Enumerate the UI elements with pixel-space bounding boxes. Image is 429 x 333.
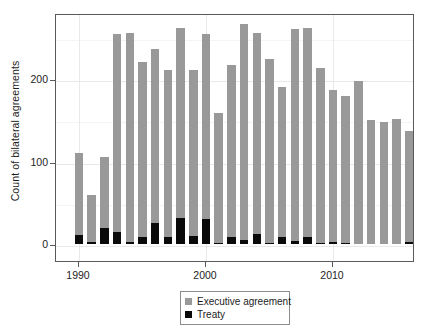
bar-2009 <box>316 68 325 244</box>
bar-segment-executive-agreement <box>240 24 249 244</box>
x-axis-tick-label: 2010 <box>320 269 343 281</box>
bar-1992 <box>100 157 109 244</box>
y-axis-tick-label: 100 <box>8 156 48 168</box>
legend-item-executive-agreement: Executive agreement <box>185 295 284 308</box>
x-axis-tick <box>78 262 79 267</box>
chart-legend: Executive agreement Treaty <box>180 291 290 325</box>
bar-1998 <box>176 28 185 244</box>
bar-segment-treaty <box>341 243 350 245</box>
bar-segment-executive-agreement <box>392 119 401 244</box>
bar-segment-treaty <box>316 243 325 245</box>
bar-segment-treaty <box>87 242 96 244</box>
bar-segment-treaty <box>329 242 338 244</box>
bar-1993 <box>113 34 122 244</box>
bar-segment-executive-agreement <box>138 62 147 244</box>
bar-2010 <box>329 90 338 244</box>
bar-segment-treaty <box>189 236 198 244</box>
bar-segment-executive-agreement <box>151 49 160 244</box>
bar-segment-executive-agreement <box>303 28 312 244</box>
x-axis-tick <box>205 262 206 267</box>
bar-segment-executive-agreement <box>316 68 325 244</box>
bar-segment-treaty <box>202 219 211 244</box>
bar-segment-treaty <box>164 237 173 244</box>
plot-inner <box>56 15 413 261</box>
bar-2006 <box>278 87 287 244</box>
bar-2000 <box>202 34 211 244</box>
bar-segment-treaty <box>126 242 135 244</box>
bar-segment-treaty <box>100 228 109 244</box>
bar-segment-executive-agreement <box>367 120 376 244</box>
bar-segment-executive-agreement <box>113 34 122 244</box>
bar-segment-treaty <box>291 241 300 244</box>
bar-segment-executive-agreement <box>176 28 185 244</box>
bar-2007 <box>291 29 300 244</box>
bar-segment-treaty <box>278 237 287 244</box>
bar-segment-executive-agreement <box>329 90 338 244</box>
bar-segment-treaty <box>265 243 274 245</box>
chart-root: Count of bilateral agreements 0100200 19… <box>0 0 429 333</box>
bar-segment-executive-agreement <box>202 34 211 244</box>
legend-swatch-treaty-icon <box>185 311 192 318</box>
bar-segment-treaty <box>151 223 160 244</box>
bar-segment-treaty <box>176 218 185 244</box>
bar-segment-executive-agreement <box>214 113 223 244</box>
bar-1997 <box>164 70 173 244</box>
bar-1994 <box>126 33 135 244</box>
bar-segment-executive-agreement <box>278 87 287 244</box>
bar-1995 <box>138 62 147 244</box>
x-axis-tick <box>332 262 333 267</box>
y-axis-title: Count of bilateral agreements <box>6 0 24 262</box>
bar-segment-treaty <box>253 234 262 244</box>
bar-segment-executive-agreement <box>227 65 236 244</box>
bar-segment-executive-agreement <box>164 70 173 244</box>
bar-2004 <box>253 33 262 244</box>
bar-segment-treaty <box>405 242 413 244</box>
bar-1990 <box>75 153 84 244</box>
y-axis-tick-label: 0 <box>8 238 48 250</box>
bar-segment-executive-agreement <box>265 59 274 244</box>
bar-2015 <box>392 119 401 244</box>
bar-segment-executive-agreement <box>87 195 96 244</box>
bar-2016 <box>405 131 413 244</box>
x-axis-tick-label: 2000 <box>193 269 216 281</box>
plot-area <box>55 14 414 262</box>
bar-2012 <box>354 81 363 244</box>
bar-segment-executive-agreement <box>126 33 135 244</box>
bar-segment-executive-agreement <box>291 29 300 244</box>
bar-2011 <box>341 96 350 245</box>
bar-segment-treaty <box>113 232 122 244</box>
bar-segment-executive-agreement <box>253 33 262 244</box>
gridline-horizontal-minor <box>56 40 413 41</box>
legend-label-executive-agreement: Executive agreement <box>197 295 291 308</box>
bar-2002 <box>227 65 236 244</box>
gridline-horizontal <box>56 246 413 247</box>
bar-2003 <box>240 24 249 244</box>
bar-segment-treaty <box>240 240 249 244</box>
bar-segment-treaty <box>138 237 147 244</box>
bar-segment-executive-agreement <box>189 70 198 244</box>
bar-segment-executive-agreement <box>405 131 413 244</box>
bar-2005 <box>265 59 274 244</box>
bar-1999 <box>189 70 198 244</box>
bar-2013 <box>367 120 376 244</box>
bar-segment-executive-agreement <box>75 153 84 244</box>
legend-label-treaty: Treaty <box>197 308 225 321</box>
bar-2008 <box>303 28 312 244</box>
bar-segment-executive-agreement <box>380 122 389 244</box>
bar-segment-executive-agreement <box>341 96 350 245</box>
bar-segment-treaty <box>303 237 312 244</box>
bar-1996 <box>151 49 160 244</box>
bar-2001 <box>214 113 223 244</box>
bar-2014 <box>380 122 389 244</box>
legend-swatch-executive-agreement-icon <box>185 298 192 305</box>
bar-segment-treaty <box>75 235 84 244</box>
y-axis-tick-label: 200 <box>8 73 48 85</box>
x-axis-tick-label: 1990 <box>66 269 89 281</box>
legend-item-treaty: Treaty <box>185 308 284 321</box>
bar-segment-executive-agreement <box>354 81 363 244</box>
bar-segment-treaty <box>214 243 223 245</box>
bar-segment-treaty <box>227 237 236 244</box>
bar-1991 <box>87 195 96 244</box>
